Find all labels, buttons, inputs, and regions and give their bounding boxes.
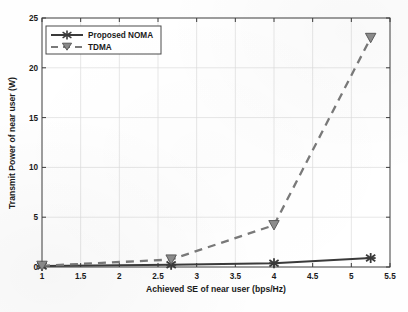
y-tick-label: 20 (29, 64, 39, 73)
y-tick-label: 15 (29, 114, 39, 123)
x-tick-label: 3.5 (230, 272, 242, 281)
x-tick-label: 5 (349, 272, 354, 281)
chart-legend[interactable]: Proposed NOMA TDMA (46, 26, 161, 54)
chart-svg: 11.522.533.544.555.5 0510152025 Achieved… (0, 0, 408, 312)
x-tick-label: 5.5 (384, 272, 396, 281)
plot-area-background (42, 18, 390, 267)
y-tick-labels: 0510152025 (29, 14, 39, 272)
x-tick-label: 4.5 (307, 272, 319, 281)
x-axis-label: Achieved SE of near user (bps/Hz) (146, 284, 286, 294)
x-tick-label: 1.5 (75, 272, 87, 281)
y-axis-label: Transmit Power of near user (W) (7, 77, 17, 209)
y-tick-label: 0 (33, 263, 38, 272)
y-tick-label: 5 (33, 213, 38, 222)
legend-label-proposed-noma: Proposed NOMA (88, 31, 153, 40)
x-tick-label: 4 (272, 272, 277, 281)
legend-label-tdma: TDMA (88, 43, 112, 52)
x-tick-label: 2 (117, 272, 122, 281)
x-tick-label: 1 (40, 272, 45, 281)
y-tick-label: 10 (29, 163, 39, 172)
x-tick-label: 2.5 (152, 272, 164, 281)
y-tick-label: 25 (29, 14, 39, 23)
x-tick-labels: 11.522.533.544.555.5 (40, 272, 396, 281)
chart-figure: 11.522.533.544.555.5 0510152025 Achieved… (0, 0, 408, 312)
legend-item-proposed-noma[interactable]: Proposed NOMA (51, 31, 153, 41)
x-tick-label: 3 (194, 272, 199, 281)
